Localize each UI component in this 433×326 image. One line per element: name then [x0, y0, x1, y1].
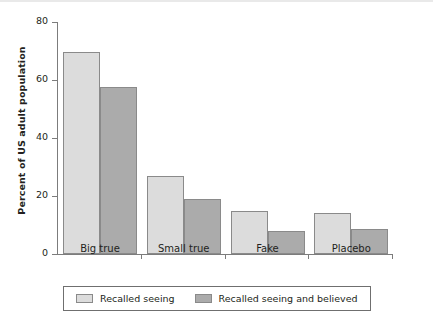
legend-item: Recalled seeing	[76, 293, 175, 304]
x-axis-tick	[141, 254, 142, 259]
y-axis-tick-label: 60	[36, 73, 48, 84]
plot-area: 020406080	[57, 22, 392, 254]
y-axis-tick: 60	[52, 80, 57, 81]
scan-edge-artifact	[0, 0, 433, 2]
dark-gray-swatch	[195, 294, 212, 303]
y-axis-tick: 80	[52, 22, 57, 23]
x-axis-category-label: Placebo	[332, 243, 371, 254]
x-axis-category-label: Small true	[158, 243, 209, 254]
bar	[63, 52, 100, 254]
x-axis-category-label: Fake	[256, 243, 279, 254]
y-axis-tick: 40	[52, 138, 57, 139]
legend-item: Recalled seeing and believed	[195, 293, 358, 304]
x-axis-tick	[392, 254, 393, 259]
light-gray-swatch	[76, 294, 93, 303]
x-axis-tick	[308, 254, 309, 259]
y-axis-label-text: Percent of US adult population	[16, 46, 27, 214]
x-axis-tick	[225, 254, 226, 259]
y-axis-tick: 20	[52, 196, 57, 197]
legend-item-label: Recalled seeing and believed	[219, 293, 358, 304]
y-axis-tick-label: 80	[36, 15, 48, 26]
bar	[100, 87, 137, 254]
y-axis-tick: 0	[52, 254, 57, 255]
y-axis-tick-label: 20	[36, 189, 48, 200]
y-axis-line	[57, 22, 58, 254]
y-axis-tick-label: 40	[36, 131, 48, 142]
bar-chart-figure: Percent of US adult population 020406080…	[0, 0, 433, 326]
legend-item-label: Recalled seeing	[100, 293, 175, 304]
chart-legend: Recalled seeingRecalled seeing and belie…	[63, 286, 371, 311]
y-axis-tick-label: 0	[42, 247, 48, 258]
y-axis-label: Percent of US adult population	[12, 30, 30, 230]
x-axis-category-label: Big true	[80, 243, 120, 254]
